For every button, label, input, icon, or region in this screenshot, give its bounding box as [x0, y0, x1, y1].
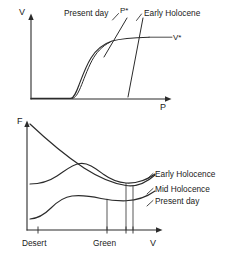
top-panel-x-axis-label: P — [160, 102, 166, 112]
bottom-panel-y-axis-arrowhead — [24, 121, 29, 128]
top-panel-label-p-star: P* — [120, 6, 128, 15]
top-panel-x-axis-arrowhead — [165, 96, 172, 101]
bottom-panel-label-mid-holocence: Mid Holocence — [155, 184, 210, 194]
bottom-panel-y-axis-label: F — [17, 116, 23, 126]
top-panel-early-holocene-leader — [137, 14, 142, 21]
bottom-panel-early-holocence-curve — [30, 124, 155, 186]
bottom-panel-x-axis-arrowhead — [156, 227, 163, 232]
bottom-panel-x-axis — [27, 227, 163, 232]
figure-root: V P Present day P* Early Holocene V* — [0, 0, 226, 254]
top-panel-y-axis — [28, 14, 33, 100]
bottom-panel-present-day-curve — [30, 191, 155, 219]
bottom-panel: F V Desert Green Early Holocence Mid Hol… — [17, 116, 216, 248]
top-panel-early-holocene-threshold-line — [128, 18, 143, 97]
bottom-panel-y-axis — [24, 121, 29, 231]
figure-canvas: V P Present day P* Early Holocene V* — [0, 0, 226, 254]
top-panel-label-v-star: V* — [173, 33, 181, 42]
bottom-panel-x-axis-label: V — [150, 238, 156, 248]
bottom-panel-label-early-holocence: Early Holocence — [155, 169, 216, 179]
top-panel-p-star-line — [104, 18, 127, 57]
bottom-panel-label-present-day: Present day — [155, 196, 200, 206]
bottom-panel-xtick-label-green: Green — [93, 238, 116, 248]
top-panel-y-axis-arrowhead — [28, 14, 33, 21]
top-panel-label-present-day: Present day — [64, 8, 109, 18]
top-panel: V P Present day P* Early Holocene V* — [19, 6, 201, 112]
top-panel-x-axis — [31, 96, 172, 101]
top-panel-present-day-leader — [113, 14, 119, 21]
bottom-panel-present-day-leader — [147, 201, 153, 207]
top-panel-present-day-curve — [73, 42, 111, 98]
top-panel-label-early-holocene: Early Holocene — [144, 8, 201, 18]
top-panel-y-axis-label: V — [19, 7, 25, 17]
bottom-panel-xtick-label-desert: Desert — [22, 238, 47, 248]
